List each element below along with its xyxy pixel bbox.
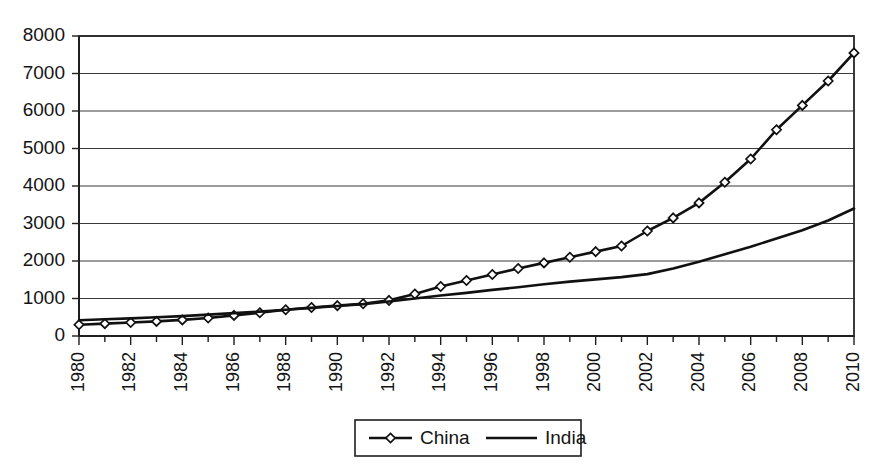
x-axis-tick-label: 2010 xyxy=(843,352,863,392)
y-axis-tick-labels: 010002000300040005000600070008000 xyxy=(23,24,65,345)
data-series-group xyxy=(74,48,858,329)
series-line-india xyxy=(79,209,854,321)
x-axis-tick-label: 1982 xyxy=(119,352,139,392)
chart-legend: ChinaIndia xyxy=(355,420,587,456)
x-axis-tick-label: 2004 xyxy=(688,352,708,392)
y-axis-tick-label: 1000 xyxy=(23,287,65,308)
y-axis-tick-label: 2000 xyxy=(23,249,65,270)
series-india xyxy=(79,209,854,321)
series-china xyxy=(74,48,858,329)
x-axis-tick-label: 2000 xyxy=(584,352,604,392)
y-axis-tick-label: 5000 xyxy=(23,137,65,158)
y-axis-tick-label: 4000 xyxy=(23,174,65,195)
data-point-marker xyxy=(436,282,445,291)
x-axis-tick-label: 1984 xyxy=(171,352,191,392)
data-point-marker xyxy=(514,264,523,273)
x-axis-tick-label: 1990 xyxy=(326,352,346,392)
gridlines xyxy=(79,36,854,299)
y-axis-tick-label: 8000 xyxy=(23,24,65,45)
legend-label-india: India xyxy=(545,427,587,448)
x-axis-tick-label: 1994 xyxy=(429,352,449,392)
x-axis-tick-label: 1992 xyxy=(378,352,398,392)
data-point-marker xyxy=(462,276,471,285)
y-axis-tick-label: 0 xyxy=(54,324,65,345)
x-axis-tick-labels: 1980198219841986198819901992199419961998… xyxy=(68,352,863,392)
x-axis-tick-label: 2006 xyxy=(739,352,759,392)
data-point-marker xyxy=(488,270,497,279)
y-axis-tick-label: 6000 xyxy=(23,99,65,120)
x-axis-tick-label: 1986 xyxy=(223,352,243,392)
x-axis-tick-label: 1998 xyxy=(533,352,553,392)
x-axis-tick-label: 2008 xyxy=(791,352,811,392)
x-axis-tick-label: 1980 xyxy=(68,352,88,392)
data-point-marker xyxy=(539,258,548,267)
x-axis-tick-label: 2002 xyxy=(636,352,656,392)
y-axis-tick-marks xyxy=(72,36,79,336)
chart-canvas: 010002000300040005000600070008000 198019… xyxy=(0,0,871,473)
x-axis-tick-label: 1996 xyxy=(481,352,501,392)
y-axis-tick-label: 7000 xyxy=(23,62,65,83)
line-chart: 010002000300040005000600070008000 198019… xyxy=(0,0,871,473)
x-axis-tick-marks xyxy=(79,336,854,345)
data-point-marker xyxy=(591,247,600,256)
y-axis-tick-label: 3000 xyxy=(23,212,65,233)
x-axis-tick-label: 1988 xyxy=(274,352,294,392)
legend-label-china: China xyxy=(420,427,470,448)
